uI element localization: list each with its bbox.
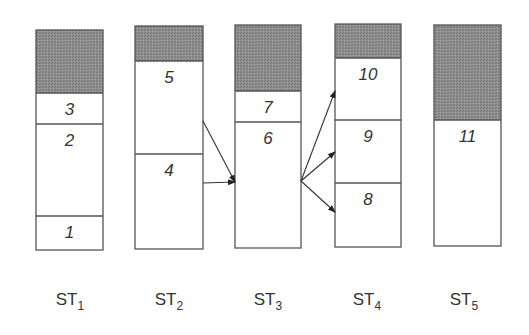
stack-label-st1: ST1 (56, 290, 85, 313)
block-label: 7 (263, 98, 273, 117)
block-label: 4 (164, 161, 173, 180)
block-label: 8 (363, 190, 373, 209)
shaded-region (335, 24, 401, 58)
stack-labels-layer: ST1ST2ST3ST4ST5 (56, 290, 479, 313)
shaded-region (36, 30, 103, 93)
block-label: 5 (164, 68, 174, 87)
stack-label-st3: ST3 (254, 290, 283, 313)
shaded-region (434, 25, 501, 120)
block-label: 9 (363, 127, 373, 146)
stack-st2: 54 (135, 26, 203, 249)
stack-label-st4: ST4 (353, 290, 382, 313)
stack-st1: 321 (36, 30, 103, 250)
transfer-arrow (301, 181, 335, 212)
stack-st4: 1098 (335, 24, 401, 247)
block-label: 1 (65, 223, 74, 242)
stacks-layer: 3215476109811 (36, 24, 501, 250)
block-label: 10 (359, 65, 378, 84)
transfer-arrow (203, 121, 235, 182)
stack-st5: 11 (434, 25, 501, 246)
stack-st3: 76 (235, 25, 301, 248)
block-label: 11 (459, 127, 477, 146)
block-label: 2 (64, 131, 75, 150)
stack-transfer-diagram: 3215476109811 ST1ST2ST3ST4ST5 (0, 0, 529, 335)
transfer-arrow (203, 182, 235, 183)
stack-label-st5: ST5 (450, 290, 479, 313)
block-label: 6 (263, 129, 273, 148)
stack-label-st2: ST2 (155, 290, 184, 313)
shaded-region (135, 26, 203, 61)
transfer-arrow (301, 91, 335, 181)
block-label: 3 (65, 100, 75, 119)
shaded-region (235, 25, 301, 91)
